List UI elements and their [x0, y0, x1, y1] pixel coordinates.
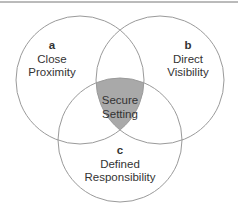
- set-b-label-line2: Visibility: [167, 66, 209, 78]
- set-a-label-line2: Proximity: [28, 66, 76, 78]
- set-b-label-line1: Direct: [173, 53, 204, 65]
- set-a-letter: a: [49, 39, 56, 51]
- set-a-label-line1: Close: [37, 53, 66, 65]
- set-c-letter: c: [117, 144, 124, 156]
- venn-diagram: a Close Proximity b Direct Visibility Se…: [0, 0, 238, 206]
- set-b-letter: b: [184, 39, 191, 51]
- intersection-label-line2: Setting: [102, 108, 138, 120]
- intersection-label-line1: Secure: [102, 94, 138, 106]
- set-c-label-line1: Defined: [100, 158, 140, 170]
- set-c-label-line2: Responsibility: [85, 171, 156, 183]
